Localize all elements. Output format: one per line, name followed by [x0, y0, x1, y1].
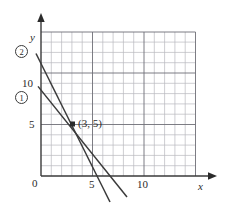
y-axis-arrow	[37, 13, 44, 22]
line-2-marker: 2	[15, 45, 28, 58]
intersection-point	[70, 122, 75, 127]
origin-tick-label: 0	[32, 178, 38, 189]
grid-minor-lines	[41, 32, 196, 176]
line-1-marker: 1	[15, 91, 28, 104]
x-axis-arrow	[208, 172, 217, 179]
intersection-label: (3, 5)	[78, 118, 102, 129]
axis-lines	[41, 20, 210, 176]
x-axis-label: x	[198, 181, 203, 192]
y-tick-label-10: 10	[22, 78, 33, 89]
x-tick-label-10: 10	[137, 179, 148, 190]
y-tick-label-5: 5	[29, 119, 35, 130]
x-tick-label-5: 5	[89, 179, 95, 190]
y-axis-label: y	[30, 32, 35, 43]
